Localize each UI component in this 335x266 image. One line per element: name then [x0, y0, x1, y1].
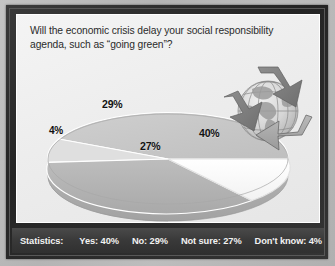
stat-yes-label: Yes:	[79, 236, 98, 246]
pie-label-dont-know: 4%	[49, 125, 63, 136]
stat-no: No: 29%	[132, 236, 168, 246]
stat-dont-know-value: 4%	[309, 236, 322, 246]
statistics-label: Statistics:	[20, 236, 63, 246]
stat-dont-know-label: Don't know:	[255, 236, 307, 246]
stat-yes: Yes: 40%	[79, 236, 119, 246]
stat-not-sure-label: Not sure:	[181, 236, 221, 246]
recycling-globe-icon	[216, 61, 320, 163]
statistics-bar: Statistics: Yes: 40% No: 29% Not sure: 2…	[12, 228, 324, 253]
stat-yes-value: 40%	[101, 236, 119, 246]
stat-dont-know: Don't know: 4%	[255, 236, 322, 246]
stat-not-sure-value: 27%	[223, 236, 241, 246]
stat-no-label: No:	[132, 236, 147, 246]
stat-no-value: 29%	[150, 236, 168, 246]
pie-label-no: 29%	[102, 98, 122, 110]
stat-not-sure: Not sure: 27%	[181, 236, 242, 246]
content-card: Will the economic crisis delay your soci…	[16, 14, 320, 223]
pie-label-not-sure: 27%	[140, 140, 160, 152]
